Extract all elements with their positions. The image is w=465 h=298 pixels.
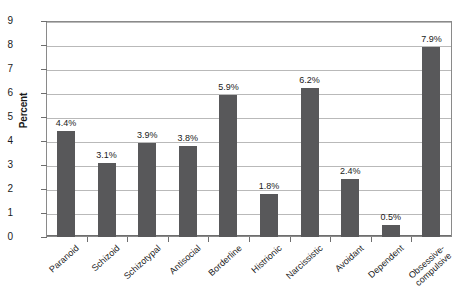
bar[interactable] — [422, 47, 440, 237]
bar[interactable] — [179, 146, 197, 237]
y-tick-label: 6 — [0, 88, 13, 98]
bar-value-label: 4.4% — [45, 119, 87, 128]
bar-value-label: 6.2% — [289, 76, 331, 85]
x-tick-mark — [249, 237, 250, 242]
bar[interactable] — [260, 194, 278, 237]
y-tick-label: 5 — [0, 112, 13, 122]
x-tick-mark — [168, 237, 169, 242]
y-tick-label: 7 — [0, 64, 13, 74]
x-tick-mark — [371, 237, 372, 242]
bar[interactable] — [382, 225, 400, 237]
x-tick-mark — [87, 237, 88, 242]
bar-value-label: 1.8% — [248, 182, 290, 191]
y-tick-label: 8 — [0, 40, 13, 50]
y-tick-label: 4 — [0, 136, 13, 146]
x-axis-labels: ParanoidSchizoidSchizotypalAntisocialBor… — [46, 243, 452, 298]
x-tick-mark — [208, 237, 209, 242]
bar[interactable] — [98, 163, 116, 237]
y-axis-title: Percent — [18, 81, 29, 141]
y-tick-mark — [41, 237, 47, 238]
bar-value-label: 3.8% — [167, 134, 209, 143]
x-tick-mark — [127, 237, 128, 242]
y-tick-label: 2 — [0, 184, 13, 194]
bar[interactable] — [219, 95, 237, 237]
y-tick-label: 3 — [0, 160, 13, 170]
bar[interactable] — [301, 88, 319, 237]
y-tick-label: 9 — [0, 16, 13, 26]
bar-value-label: 3.9% — [126, 131, 168, 140]
bar[interactable] — [57, 131, 75, 237]
x-tick-mark — [411, 237, 412, 242]
y-tick-label: 1 — [0, 208, 13, 218]
bar-chart: Percent 0123456789 4.4%3.1%3.9%3.8%5.9%1… — [0, 0, 465, 298]
chart-title-cropped — [100, 0, 330, 4]
x-tick-mark — [290, 237, 291, 242]
bar-value-label: 7.9% — [410, 35, 452, 44]
bar[interactable] — [341, 179, 359, 237]
bar-value-label: 3.1% — [86, 151, 128, 160]
bar-value-label: 0.5% — [370, 213, 412, 222]
bar-value-label: 5.9% — [207, 83, 249, 92]
x-tick-mark — [330, 237, 331, 242]
bar[interactable] — [138, 143, 156, 237]
y-tick-label: 0 — [0, 232, 13, 242]
bars-layer: 4.4%3.1%3.9%3.8%5.9%1.8%6.2%2.4%0.5%7.9% — [46, 21, 452, 237]
bar-value-label: 2.4% — [329, 167, 371, 176]
